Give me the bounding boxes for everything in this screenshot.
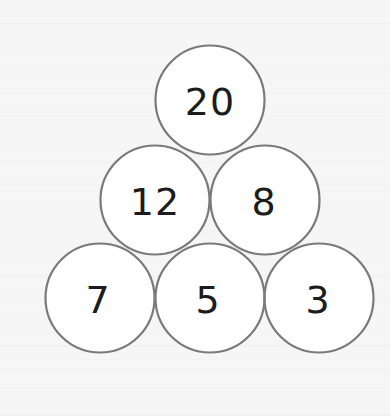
number-pyramid-diagram: 20 12 8 7 5 3 — [0, 0, 390, 416]
circle-value-row2-2: 8 — [214, 177, 314, 227]
circle-value-row3-2: 5 — [158, 275, 258, 325]
circle-value-row3-3: 3 — [268, 275, 368, 325]
circle-value-row1-1: 20 — [160, 77, 260, 127]
circle-value-row2-1: 12 — [105, 177, 205, 227]
circle-value-row3-1: 7 — [48, 275, 148, 325]
